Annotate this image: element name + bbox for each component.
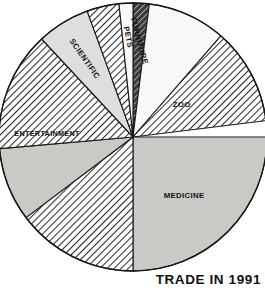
chart-caption: TRADE IN 1991 (156, 272, 261, 287)
pie-slice-medicine[interactable] (133, 137, 265, 271)
pie-chart-svg: FURNITUREZOOMEDICINEENTERTAINMENTSCIENTI… (0, 0, 265, 291)
pie-label-entertainment: ENTERTAINMENT (14, 129, 80, 138)
pie-label-medicine: MEDICINE (164, 191, 205, 200)
pie-chart-figure: FURNITUREZOOMEDICINEENTERTAINMENTSCIENTI… (0, 0, 265, 291)
pie-label-zoo: ZOO (173, 100, 191, 109)
